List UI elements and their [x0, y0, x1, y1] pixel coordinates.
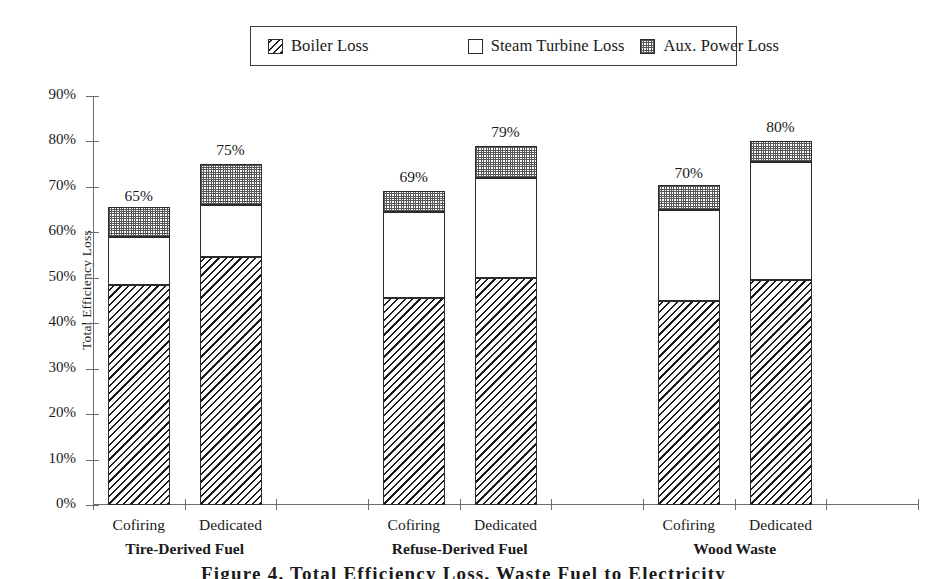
bar-total-label: 70% [675, 164, 703, 182]
legend-swatch-dots-icon [640, 39, 655, 54]
bar-segment-boiler-loss [200, 257, 262, 505]
bar-segment-aux-power-loss [383, 191, 445, 211]
bar-stack: 75% [200, 164, 262, 505]
bar-segment-steam-turbine-loss [750, 162, 812, 280]
legend-item-aux-power-loss: Aux. Power Loss [640, 36, 779, 56]
x-category-label: Dedicated [749, 516, 812, 534]
y-tick-90pct: 90% [86, 96, 99, 97]
x-tick [643, 499, 644, 510]
x-category-label: Cofiring [113, 516, 166, 534]
bar-total-label: 65% [125, 187, 153, 205]
y-tick-40pct: 40% [86, 323, 99, 324]
y-tick-label: 20% [49, 404, 77, 421]
y-tick-60pct: 60% [86, 232, 99, 233]
bar-total-label: 79% [491, 123, 519, 141]
x-tick [460, 499, 461, 510]
bar-segment-steam-turbine-loss [658, 210, 720, 301]
y-tick-label: 50% [49, 268, 77, 285]
x-tick [735, 499, 736, 510]
bar-segment-aux-power-loss [750, 141, 812, 161]
bar-segment-aux-power-loss [475, 146, 537, 178]
y-tick-label: 40% [49, 313, 77, 330]
bar-stack: 79% [475, 146, 537, 505]
legend-label-aux-power-loss: Aux. Power Loss [663, 36, 779, 56]
y-tick-10pct: 10% [86, 460, 99, 461]
legend-swatch-hatch-icon [268, 39, 283, 54]
bar-segment-boiler-loss [108, 285, 170, 505]
y-tick-label: 0% [56, 495, 76, 512]
bar-total-label: 75% [216, 141, 244, 159]
y-tick-50pct: 50% [86, 278, 99, 279]
chart-legend: Boiler Loss Steam Turbine Loss Aux. Powe… [250, 26, 737, 66]
x-tick [185, 499, 186, 510]
y-tick-label: 10% [49, 450, 77, 467]
x-tick [276, 499, 277, 510]
bar-segment-aux-power-loss [108, 207, 170, 237]
bar-segment-steam-turbine-loss [108, 237, 170, 285]
bar-stack: 80% [750, 141, 812, 505]
bar-stack: 70% [658, 187, 720, 505]
bar-segment-steam-turbine-loss [200, 205, 262, 257]
bar-segment-steam-turbine-loss [383, 212, 445, 298]
x-tick [826, 499, 827, 510]
y-tick-20pct: 20% [86, 414, 99, 415]
y-tick-label: 70% [49, 177, 77, 194]
x-group-label: Refuse-Derived Fuel [392, 540, 528, 558]
x-category-label: Dedicated [474, 516, 537, 534]
bar-segment-steam-turbine-loss [475, 178, 537, 278]
x-category-label: Dedicated [199, 516, 262, 534]
bar-segment-aux-power-loss [658, 185, 720, 210]
x-tick [551, 499, 552, 510]
bar-total-label: 69% [400, 168, 428, 186]
x-category-label: Cofiring [388, 516, 441, 534]
bar-total-label: 80% [766, 118, 794, 136]
bar-stack: 65% [108, 210, 170, 505]
y-tick-30pct: 30% [86, 369, 99, 370]
y-tick-label: 60% [49, 222, 77, 239]
legend-item-boiler-loss: Boiler Loss [268, 36, 369, 56]
x-tick [368, 499, 369, 510]
y-tick-80pct: 80% [86, 141, 99, 142]
x-category-label: Cofiring [663, 516, 716, 534]
legend-label-steam-turbine-loss: Steam Turbine Loss [491, 36, 625, 56]
legend-label-boiler-loss: Boiler Loss [291, 36, 369, 56]
plot-area: 0%10%20%30%40%50%60%70%80%90% 65%75%69%7… [93, 96, 918, 505]
bar-segment-boiler-loss [383, 298, 445, 505]
y-tick-label: 80% [49, 131, 77, 148]
x-group-label: Wood Waste [693, 540, 776, 558]
figure-caption: Figure 4. Total Efficiency Loss, Waste F… [0, 563, 927, 579]
legend-item-steam-turbine-loss: Steam Turbine Loss [468, 36, 625, 56]
bar-stack: 69% [383, 191, 445, 505]
y-tick-label: 30% [49, 359, 77, 376]
bar-segment-boiler-loss [658, 301, 720, 506]
legend-swatch-empty-icon [468, 39, 483, 54]
x-tick [93, 499, 94, 510]
bar-segment-aux-power-loss [200, 164, 262, 205]
y-axis-line [93, 96, 94, 505]
bar-segment-boiler-loss [475, 278, 537, 505]
y-tick-70pct: 70% [86, 187, 99, 188]
y-tick-label: 90% [49, 86, 77, 103]
bar-segment-boiler-loss [750, 280, 812, 505]
figure-total-efficiency-loss: Boiler Loss Steam Turbine Loss Aux. Powe… [0, 0, 927, 579]
x-group-label: Tire-Derived Fuel [125, 540, 244, 558]
x-tick [918, 499, 919, 510]
